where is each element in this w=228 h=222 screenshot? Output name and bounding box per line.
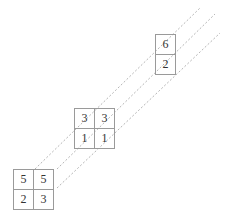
cell: 5 [14, 170, 34, 190]
cell: 3 [34, 190, 54, 210]
cell: 1 [95, 129, 115, 149]
cell: 6 [156, 35, 176, 55]
block-bottom-left: 5 5 2 3 [13, 169, 54, 210]
cell: 5 [34, 170, 54, 190]
cell: 3 [75, 109, 95, 129]
cell: 1 [75, 129, 95, 149]
dashed-line-upper [35, 8, 200, 169]
cell: 2 [156, 55, 176, 75]
cell: 3 [95, 109, 115, 129]
block-middle: 3 3 1 1 [74, 108, 115, 149]
block-top-right: 6 2 [155, 34, 176, 75]
cell: 2 [14, 190, 34, 210]
